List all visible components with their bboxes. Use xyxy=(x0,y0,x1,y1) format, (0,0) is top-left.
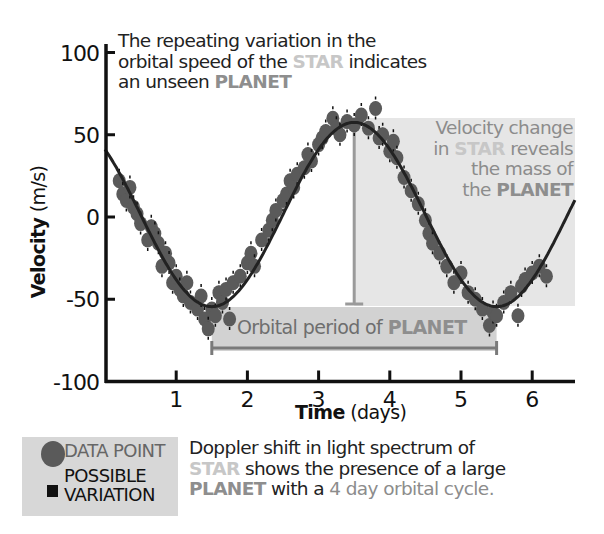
planet-label: PLANET xyxy=(214,71,291,92)
y-axis-label-bold: Velocity xyxy=(27,217,49,299)
x-axis-label: Time (days) xyxy=(295,401,406,423)
x-tick-label: 6 xyxy=(525,387,539,412)
star-label: STAR xyxy=(189,458,240,479)
bottom-caption-line3: with a xyxy=(266,478,329,499)
top-annotation-line2-end: indicates xyxy=(343,51,426,72)
planet-label: PLANET xyxy=(496,179,573,200)
planet-label: PLANET xyxy=(189,478,266,499)
legend-possible-line2: VARIATION xyxy=(64,486,155,505)
velocity-annotation-line2: in xyxy=(433,138,454,159)
top-annotation-line2: orbital speed of the xyxy=(118,51,293,72)
orbital-period-text: Orbital period of xyxy=(237,316,388,338)
top-annotation-line1: The repeating variation in the xyxy=(118,30,376,51)
data-point xyxy=(209,308,222,323)
star-label: STAR xyxy=(293,51,344,72)
data-point xyxy=(511,308,524,323)
y-tick-label: -100 xyxy=(53,370,99,395)
y-tick-label: -50 xyxy=(66,287,99,312)
y-tick-label: 50 xyxy=(73,123,99,148)
x-axis-label-bold: Time xyxy=(295,401,345,423)
x-tick-label: 1 xyxy=(169,387,183,412)
velocity-change-annotation: Velocity change in STAR reveals the mass… xyxy=(388,118,573,201)
velocity-annotation-line3: the mass of xyxy=(388,159,573,180)
x-axis-label-unit: (days) xyxy=(345,401,407,423)
planet-label: PLANET xyxy=(388,316,467,338)
orbital-cycle-text: 4 day orbital cycle. xyxy=(329,478,494,499)
data-point xyxy=(369,101,382,116)
data-point xyxy=(540,269,553,284)
velocity-annotation-line4: the xyxy=(462,179,496,200)
data-point xyxy=(490,308,503,323)
velocity-annotation-line1: Velocity change xyxy=(388,118,573,139)
data-point xyxy=(202,321,215,336)
possible-variation-marker-icon xyxy=(47,485,58,497)
velocity-annotation-line2-end: reveals xyxy=(505,138,573,159)
legend-possible-variation-label: POSSIBLE VARIATION xyxy=(64,467,155,505)
data-point xyxy=(355,108,368,123)
x-tick-label: 2 xyxy=(240,387,254,412)
star-label: STAR xyxy=(454,138,505,159)
data-point xyxy=(223,311,236,326)
legend: DATA POINT POSSIBLE VARIATION xyxy=(22,437,178,516)
y-tick-label: 100 xyxy=(60,41,99,66)
y-tick-label: 0 xyxy=(86,205,99,230)
bottom-caption-line2: shows the presence of a large xyxy=(240,458,506,479)
y-axis-label: Velocity (m/s) xyxy=(27,166,49,299)
data-point-marker-icon xyxy=(41,441,65,467)
y-axis-label-unit: (m/s) xyxy=(27,166,49,218)
bottom-caption-line1: Doppler shift in light spectrum of xyxy=(189,438,505,459)
top-annotation-line3: an unseen xyxy=(118,71,214,92)
data-point xyxy=(244,246,257,261)
x-tick-label: 5 xyxy=(454,387,468,412)
orbital-period-label: Orbital period of PLANET xyxy=(237,317,467,338)
bottom-caption: Doppler shift in light spectrum of STAR … xyxy=(189,438,505,500)
legend-data-point-label: DATA POINT xyxy=(64,442,165,461)
top-annotation: The repeating variation in the orbital s… xyxy=(118,31,427,93)
